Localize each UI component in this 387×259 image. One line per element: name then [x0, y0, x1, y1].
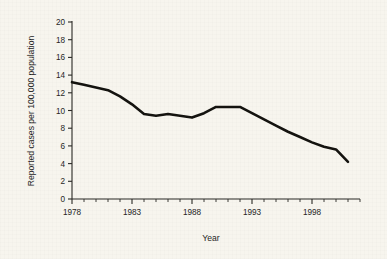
y-axis-title: Reported cases per 100,000 population: [26, 36, 36, 187]
y-tick-label: 2: [60, 177, 65, 186]
y-tick-label: 18: [56, 36, 66, 45]
x-tick-label: 1998: [303, 208, 322, 217]
y-tick-label: 16: [56, 53, 66, 62]
x-tick-label: 1978: [63, 208, 82, 217]
y-axis-tick-labels: 02468101214161820: [56, 18, 66, 204]
line-chart-plot: 02468101214161820 19781983198819931998 Y…: [0, 0, 387, 259]
y-tick-label: 0: [60, 195, 65, 204]
y-tick-label: 14: [56, 71, 66, 80]
y-tick-label: 10: [56, 107, 66, 116]
x-axis-title: Year: [202, 233, 220, 243]
x-tick-label: 1993: [243, 208, 262, 217]
y-axis-ticks: [68, 22, 72, 199]
x-tick-label: 1983: [123, 208, 142, 217]
y-tick-label: 6: [60, 142, 65, 151]
y-tick-label: 4: [60, 160, 65, 169]
x-tick-label: 1988: [183, 208, 202, 217]
y-tick-label: 20: [56, 18, 66, 27]
chart-figure: 02468101214161820 19781983198819931998 Y…: [0, 0, 387, 259]
x-axis-tick-labels: 19781983198819931998: [63, 208, 322, 217]
data-series-line: [72, 82, 348, 162]
y-tick-label: 12: [56, 89, 66, 98]
y-tick-label: 8: [60, 124, 65, 133]
